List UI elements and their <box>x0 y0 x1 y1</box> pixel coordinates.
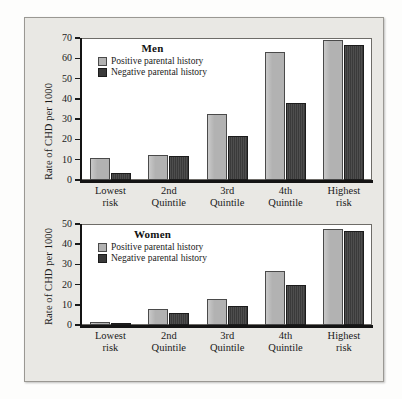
legend-item-positive-men: Positive parental history <box>98 56 207 66</box>
y-tick-label: 40 <box>62 239 72 249</box>
legend-label-negative: Negative parental history <box>111 253 207 263</box>
y-tick-mark <box>75 284 80 286</box>
x-axis-line-women <box>80 325 373 328</box>
y-tick-mark <box>75 324 80 326</box>
legend-women: Women Positive parental history Negative… <box>98 228 207 263</box>
y-tick-label: 20 <box>62 134 72 144</box>
bar-negative <box>228 306 248 325</box>
y-axis-line-men <box>80 38 82 182</box>
y-tick-label: 50 <box>62 74 72 84</box>
y-tick-mark <box>75 179 80 181</box>
y-axis-title-women: Rate of CHD per 1000 <box>43 228 54 325</box>
x-tick-label: Lowest risk <box>95 330 126 354</box>
bar-negative <box>344 231 364 325</box>
y-tick-label: 10 <box>62 300 72 310</box>
y-tick-label: 30 <box>62 114 72 124</box>
bar-negative <box>286 103 306 180</box>
bar-negative <box>344 45 364 180</box>
bar-positive <box>207 299 227 325</box>
y-tick-label: 10 <box>62 155 72 165</box>
y-tick-label: 70 <box>62 33 72 43</box>
bar-positive <box>148 309 168 325</box>
chart-panel-men: Rate of CHD per 1000 010203040506070 Low… <box>32 25 376 211</box>
bar-positive <box>265 271 285 325</box>
x-tick-label: Highest risk <box>328 185 361 209</box>
x-tick-label: 3rd Quintile <box>210 330 244 354</box>
legend-title-women: Women <box>98 228 207 240</box>
y-tick-mark <box>75 243 80 245</box>
y-tick-mark <box>75 118 80 120</box>
x-tick-label: 4th Quintile <box>268 330 302 354</box>
y-axis-line-women <box>80 224 82 327</box>
bar-negative <box>169 313 189 325</box>
chart-panel-women: Rate of CHD per 1000 01020304050 Lowest … <box>32 218 376 373</box>
legend-item-positive-women: Positive parental history <box>98 242 207 252</box>
y-tick-label: 30 <box>62 259 72 269</box>
y-tick-label: 40 <box>62 94 72 104</box>
x-axis-line-men <box>80 180 373 183</box>
y-tick-label: 20 <box>62 280 72 290</box>
bar-positive <box>323 229 343 325</box>
legend-men: Men Positive parental history Negative p… <box>98 42 207 77</box>
bar-positive <box>90 158 110 180</box>
legend-swatch-positive-icon <box>98 243 107 252</box>
y-tick-mark <box>75 159 80 161</box>
x-tick-label: Highest risk <box>328 330 361 354</box>
x-tick-label: Lowest risk <box>95 185 126 209</box>
y-tick-mark <box>75 58 80 60</box>
legend-item-negative-men: Negative parental history <box>98 67 207 77</box>
legend-label-positive: Positive parental history <box>111 242 203 252</box>
bar-positive <box>265 52 285 180</box>
y-tick-label: 60 <box>62 53 72 63</box>
y-tick-label: 0 <box>67 175 72 185</box>
legend-label-positive: Positive parental history <box>111 56 203 66</box>
bar-negative <box>169 156 189 180</box>
figure-root: Rate of CHD per 1000 010203040506070 Low… <box>0 0 402 399</box>
legend-swatch-positive-icon <box>98 57 107 66</box>
bar-negative <box>111 173 131 180</box>
y-tick-mark <box>75 37 80 39</box>
y-axis-title-men: Rate of CHD per 1000 <box>43 83 54 180</box>
legend-label-negative: Negative parental history <box>111 67 207 77</box>
bar-positive <box>207 114 227 180</box>
y-tick-mark <box>75 98 80 100</box>
legend-item-negative-women: Negative parental history <box>98 253 207 263</box>
bar-positive <box>323 40 343 180</box>
bar-negative <box>286 285 306 325</box>
bar-negative <box>111 323 131 325</box>
legend-title-men: Men <box>98 42 207 54</box>
y-tick-mark <box>75 223 80 225</box>
y-tick-mark <box>75 139 80 141</box>
y-tick-label: 0 <box>67 320 72 330</box>
y-tick-mark <box>75 264 80 266</box>
x-tick-label: 3rd Quintile <box>210 185 244 209</box>
bar-negative <box>228 136 248 180</box>
x-tick-label: 2nd Quintile <box>152 185 186 209</box>
x-tick-label: 4th Quintile <box>268 185 302 209</box>
y-tick-mark <box>75 304 80 306</box>
bar-positive <box>148 155 168 180</box>
bar-positive <box>90 322 110 325</box>
y-tick-mark <box>75 78 80 80</box>
legend-swatch-negative-icon <box>98 68 107 77</box>
x-tick-label: 2nd Quintile <box>152 330 186 354</box>
legend-swatch-negative-icon <box>98 254 107 263</box>
y-tick-label: 50 <box>62 219 72 229</box>
